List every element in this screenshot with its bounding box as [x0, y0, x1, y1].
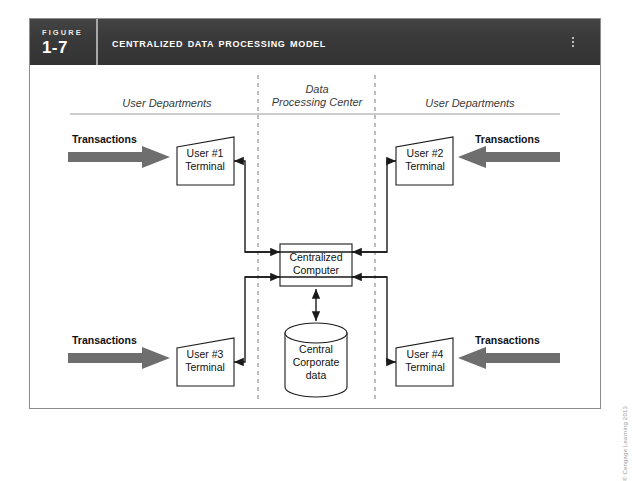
figure-number: 1-7 [42, 38, 96, 57]
figure-title-container: Centralized Data Processing Model [98, 19, 600, 65]
terminal-2-label: User #2 Terminal [399, 147, 451, 173]
terminal-4-line1: User #4 [399, 348, 451, 361]
header-dots-icon [572, 37, 574, 47]
transaction-arrow-bottom-left [68, 347, 170, 369]
transaction-label-top-right: Transactions [475, 133, 540, 145]
terminal-4-line2: Terminal [399, 361, 451, 374]
terminal-3-line2: Terminal [179, 361, 231, 374]
terminal-3-line1: User #3 [179, 348, 231, 361]
transaction-arrow-top-right [458, 146, 560, 168]
terminal-2-line1: User #2 [399, 147, 451, 160]
link-computer-to-terminal-1 [234, 161, 316, 252]
centralized-computer-label: Centralized Computer [280, 251, 352, 277]
figure-frame: FIGURE 1-7 Centralized Data Processing M… [29, 18, 601, 409]
terminal-3-label: User #3 Terminal [179, 348, 231, 374]
computer-line1: Centralized [280, 251, 352, 264]
transaction-arrow-bottom-right [458, 347, 560, 369]
computer-line2: Computer [280, 264, 352, 277]
database-line2: Corporate [280, 356, 352, 369]
column-heading-center-line1: Data [252, 83, 382, 96]
figure-number-block: FIGURE 1-7 [30, 19, 98, 65]
terminal-4-label: User #4 Terminal [399, 348, 451, 374]
terminal-1-line1: User #1 [179, 147, 231, 160]
transaction-label-bottom-right: Transactions [475, 334, 540, 346]
column-heading-left: User Departments [82, 97, 252, 110]
figure-word-label: FIGURE [42, 27, 96, 38]
figure-header-bar: FIGURE 1-7 Centralized Data Processing M… [30, 19, 600, 65]
transaction-label-bottom-left: Transactions [72, 334, 137, 346]
database-label: Central Corporate data [280, 343, 352, 382]
terminal-1-line2: Terminal [179, 160, 231, 173]
transaction-arrow-top-left [68, 146, 170, 168]
terminal-2-line2: Terminal [399, 160, 451, 173]
link-computer-to-terminal-2 [316, 161, 396, 252]
copyright-notice: © Cengage Learning 2013 [622, 406, 628, 481]
column-heading-right: User Departments [385, 97, 555, 110]
figure-title: Centralized Data Processing Model [112, 35, 326, 50]
column-heading-center: Data Processing Center [252, 83, 382, 109]
database-line1: Central [280, 343, 352, 356]
transaction-label-top-left: Transactions [72, 133, 137, 145]
diagram-canvas: User Departments Data Processing Center … [30, 65, 600, 408]
column-heading-center-line2: Processing Center [252, 96, 382, 109]
database-line3: data [280, 369, 352, 382]
terminal-1-label: User #1 Terminal [179, 147, 231, 173]
